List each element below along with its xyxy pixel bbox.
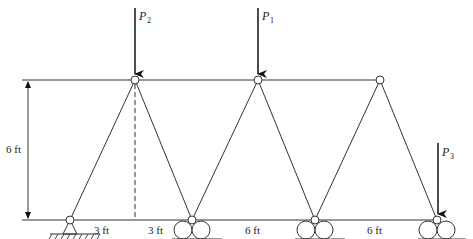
web-members [70, 80, 437, 220]
joints [66, 76, 441, 224]
joint-top-2 [254, 76, 262, 84]
dim-label-4: 6 ft [367, 224, 382, 236]
dim-label-2: 3 ft [148, 224, 163, 236]
svg-text:P: P [441, 145, 450, 159]
load-p3: P 3 [438, 143, 454, 214]
truss-diagram: 6 ft 3 ft 3 ft 6 ft 6 ft [0, 0, 473, 239]
svg-text:P: P [138, 9, 147, 23]
dim-label-3: 6 ft [245, 224, 260, 236]
joint-bottom-3 [311, 216, 319, 224]
joint-bottom-4 [433, 216, 441, 224]
joint-bottom-2 [188, 216, 196, 224]
svg-text:P: P [261, 9, 270, 23]
roller-support-3 [295, 221, 345, 239]
height-label: 6 ft [6, 143, 21, 155]
svg-text:2: 2 [147, 16, 151, 25]
joint-bottom-1 [66, 216, 74, 224]
pin-support [48, 220, 100, 239]
load-p1: P 1 [258, 8, 274, 74]
svg-text:3: 3 [450, 152, 454, 161]
svg-text:1: 1 [270, 16, 274, 25]
load-p2: P 2 [135, 8, 151, 74]
roller-support-2 [172, 221, 222, 239]
joint-top-1 [131, 76, 139, 84]
joint-top-3 [376, 76, 384, 84]
roller-support-4 [418, 221, 466, 239]
height-dimension: 6 ft [4, 81, 31, 219]
